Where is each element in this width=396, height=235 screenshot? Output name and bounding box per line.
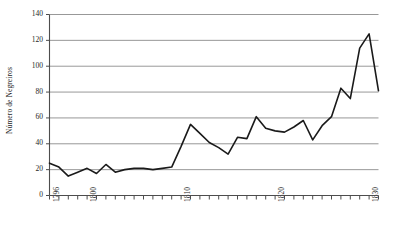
chart-figure: Número de Negreiros 140120100806040200 1… [0,0,396,235]
data-line-numero-de-negreiros [50,34,379,176]
line-plot [0,0,396,235]
